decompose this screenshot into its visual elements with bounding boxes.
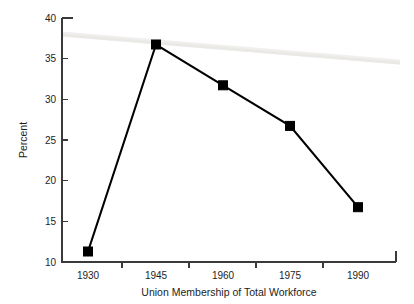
series-line <box>88 45 358 252</box>
y-tick-label: 20 <box>45 175 57 186</box>
y-axis-ticks <box>62 18 68 262</box>
x-tick-label: 1960 <box>212 270 235 281</box>
x-tick-label: 1945 <box>145 270 168 281</box>
y-tick-label: 30 <box>45 94 57 105</box>
scan-artifact <box>62 34 400 63</box>
data-point-marker <box>152 40 161 49</box>
axis-frame <box>62 18 396 262</box>
y-tick-label: 10 <box>45 257 57 268</box>
x-axis-tick-labels: 1930 1945 1960 1975 1990 <box>77 270 370 281</box>
x-tick-label: 1930 <box>77 270 100 281</box>
data-series <box>84 40 363 256</box>
data-point-marker <box>219 81 228 90</box>
y-tick-label: 25 <box>45 135 57 146</box>
data-point-marker <box>286 121 295 130</box>
y-tick-label: 40 <box>45 13 57 24</box>
y-tick-label: 35 <box>45 53 57 64</box>
x-axis-ticks <box>122 262 323 268</box>
data-point-marker <box>84 247 93 256</box>
y-axis-tick-labels: 40 35 30 25 20 15 10 <box>45 13 57 268</box>
x-axis-title: Union Membership of Total Workforce <box>141 286 316 298</box>
x-tick-label: 1975 <box>279 270 302 281</box>
chart-container: 40 35 30 25 20 15 10 1930 1945 1960 1975… <box>0 0 414 304</box>
data-point-marker <box>354 203 363 212</box>
y-tick-label: 15 <box>45 216 57 227</box>
x-tick-label: 1990 <box>347 270 370 281</box>
y-axis-title: Percent <box>17 122 29 158</box>
line-chart: 40 35 30 25 20 15 10 1930 1945 1960 1975… <box>0 0 414 304</box>
